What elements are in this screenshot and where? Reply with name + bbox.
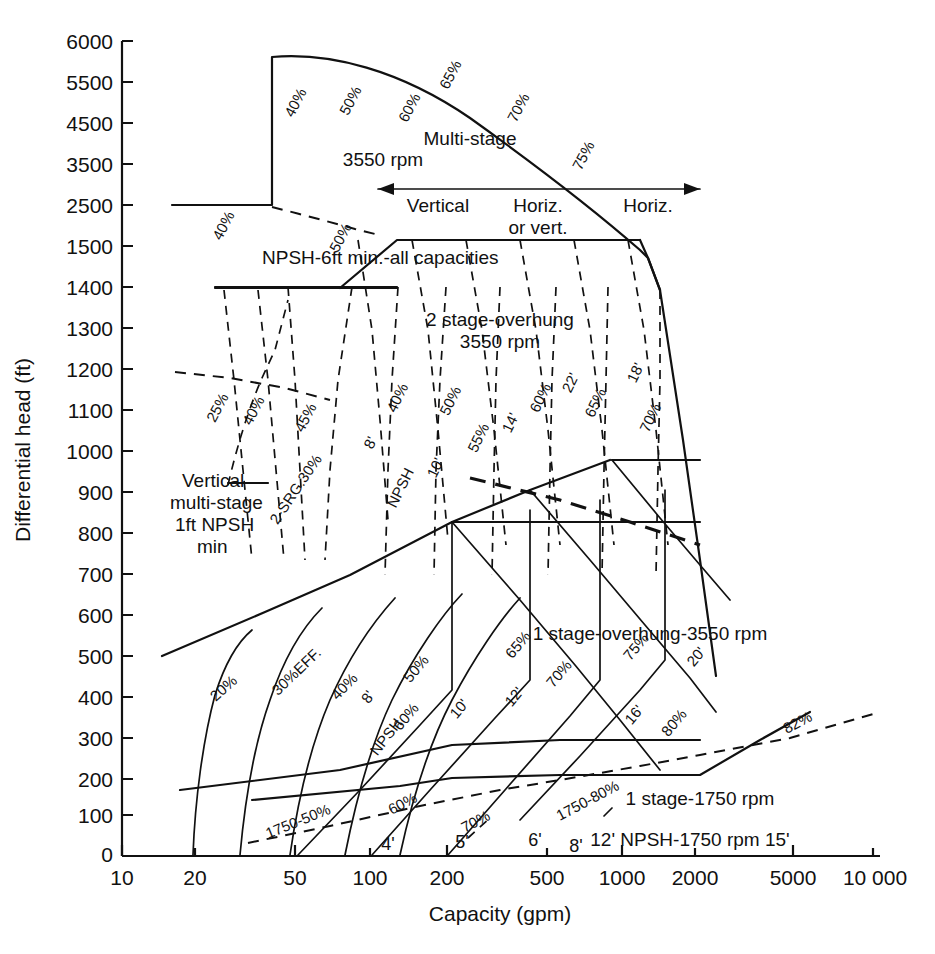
efficiency-label: 60% <box>526 380 554 414</box>
npsh-label: 10' <box>423 455 447 480</box>
efficiency-label: 2-SRG.30% <box>266 451 325 527</box>
x-tick-label: 2000 <box>672 866 719 889</box>
npsh-label: 4' <box>381 834 394 854</box>
npsh-label: 20' <box>683 643 709 669</box>
efficiency-label: 40% <box>209 208 238 242</box>
y-axis-title: Differential head (ft) <box>11 358 34 542</box>
efficiency-label: 50% <box>336 83 365 117</box>
pump-coverage-chart: 6000 5500 4500 3500 2500 1500 1400 1300 … <box>0 0 935 954</box>
y-tick-label: 1200 <box>66 358 113 381</box>
npsh-all-capacities-note: NPSH-6ft min.-all capacities <box>262 247 499 268</box>
efficiency-label: 25% <box>203 390 232 424</box>
efficiency-label: 50% <box>400 651 432 685</box>
y-axis-ticks <box>122 41 133 815</box>
x-axis-title: Capacity (gpm) <box>429 902 571 925</box>
efficiency-label: 40% <box>239 393 268 427</box>
orientation-right-label: Horiz. <box>623 195 673 216</box>
y-tick-label: 1400 <box>66 276 113 299</box>
efficiency-label: 70% <box>504 90 533 124</box>
y-tick-label: 5500 <box>66 71 113 94</box>
efficiency-label: 70% <box>543 656 575 690</box>
one-stage-1750-labels: 1750-50% 60% 70% 1750-80% 82% 1 stage-17… <box>263 708 815 856</box>
y-tick-label: 800 <box>78 522 113 545</box>
x-tick-label: 1000 <box>599 866 646 889</box>
two-stage-rpm: 3550 rpm <box>460 331 540 352</box>
efficiency-label: 60% <box>395 90 424 124</box>
npsh-label: 8' <box>569 836 582 856</box>
y-tick-label: 400 <box>78 686 113 709</box>
y-tick-label: 300 <box>78 727 113 750</box>
one-stage-overhung-title: 1 stage-overhung-3550 rpm <box>533 623 767 644</box>
vertical-multistage-line3: 1ft NPSH <box>175 514 254 535</box>
efficiency-label: 65% <box>436 57 465 91</box>
y-tick-label: 0 <box>101 843 113 866</box>
y-tick-label: 3500 <box>66 153 113 176</box>
x-tick-label: 5000 <box>770 866 817 889</box>
efficiency-label: 80% <box>658 705 690 739</box>
efficiency-label: 40% <box>383 380 411 414</box>
npsh-label: 14' <box>498 410 522 435</box>
one-stage-1750-title: 1 stage-1750 rpm <box>626 788 775 809</box>
x-tick-label: 20 <box>183 866 206 889</box>
npsh-label: 18' <box>623 360 647 385</box>
y-tick-label: 1500 <box>66 235 113 258</box>
y-tick-label: 1000 <box>66 440 113 463</box>
efficiency-label: 30%EFF. <box>268 644 324 699</box>
npsh-1750-title: 12' NPSH-1750 rpm 15' <box>590 829 789 850</box>
y-tick-label: 900 <box>78 481 113 504</box>
x-tick-label: 500 <box>529 866 564 889</box>
y-tick-label: 1300 <box>66 317 113 340</box>
efficiency-label: 65% <box>502 627 534 661</box>
efficiency-label: 60% <box>385 789 419 818</box>
y-tick-label: 2500 <box>66 194 113 217</box>
chart-page: 6000 5500 4500 3500 2500 1500 1400 1300 … <box>0 0 935 954</box>
x-tick-label: 100 <box>352 866 387 889</box>
y-tick-label: 1100 <box>68 399 113 422</box>
x-tick-label: 200 <box>429 866 464 889</box>
x-tick-labels: 10 20 50 100 200 500 1000 2000 5000 10 0… <box>110 866 907 889</box>
y-tick-labels: 6000 5500 4500 3500 2500 1500 1400 1300 … <box>66 30 113 866</box>
orientation-vertical-label: Vertical <box>407 195 469 216</box>
x-tick-label: 50 <box>283 866 306 889</box>
npsh-label: 10' <box>446 695 472 721</box>
y-tick-label: 200 <box>78 768 113 791</box>
efficiency-label: 40% <box>281 85 310 119</box>
efficiency-label: 55% <box>464 420 492 454</box>
vertical-multistage-line1: Vertical <box>182 470 244 491</box>
two-stage-labels: 40% 50% 55% 60% 65% 70% 8' 10' 14' 22' 1… <box>360 360 664 510</box>
efficiency-label: 20% <box>206 672 240 705</box>
x-tick-label: 10 000 <box>843 866 907 889</box>
vertical-multistage-line2: multi-stage <box>170 492 263 513</box>
y-tick-label: 600 <box>78 604 113 627</box>
efficiency-label: 75% <box>569 138 598 172</box>
y-tick-label: 700 <box>78 563 113 586</box>
y-tick-label: 4500 <box>66 112 113 135</box>
efficiency-label: 40% <box>327 669 360 702</box>
npsh-label: 22' <box>558 370 582 395</box>
efficiency-label: 1750-80% <box>553 777 621 824</box>
npsh-label: 6' <box>528 830 541 850</box>
npsh-word-label: NPSH <box>366 715 405 758</box>
orientation-mid-label-1: Horiz. <box>513 195 563 216</box>
axis-lines <box>122 41 880 856</box>
y-tick-label: 100 <box>78 804 113 827</box>
x-tick-label: 10 <box>110 866 133 889</box>
npsh-label: 8' <box>360 434 380 452</box>
y-tick-label: 6000 <box>66 30 113 53</box>
multistage-title: Multi-stage <box>424 128 517 149</box>
one-stage-labels: 20% 30%EFF. 40% 50% 60% 8' NPSH 10' 12' … <box>206 627 708 758</box>
orientation-mid-label-2: or vert. <box>508 217 567 238</box>
multistage-rpm: 3550 rpm <box>343 149 423 170</box>
orientation-arrow <box>378 183 700 195</box>
npsh-label: 5' <box>455 832 468 852</box>
efficiency-label: 45% <box>291 400 320 434</box>
npsh-label: 16' <box>621 701 647 727</box>
two-stage-title: 2 stage-overhung <box>426 309 574 330</box>
two-stage-interior-boundaries <box>222 288 340 483</box>
y-tick-label: 500 <box>78 645 113 668</box>
vertical-multistage-line4: min <box>197 536 228 557</box>
npsh-label: 8' <box>357 687 377 706</box>
vertical-multistage-labels: 25% 40% 45% 2-SRG.30% Vertical multi-sta… <box>170 390 325 557</box>
